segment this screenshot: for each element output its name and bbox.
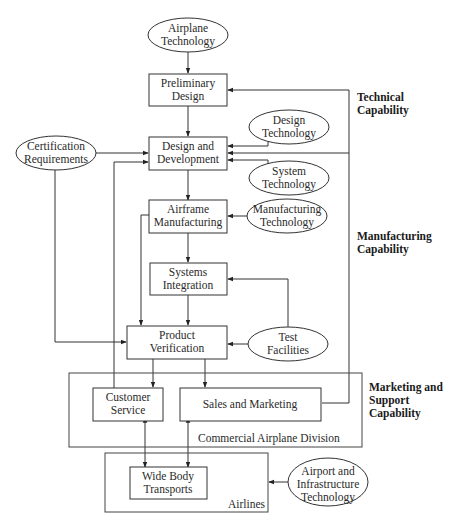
svg-text:Capability: Capability [357,243,409,256]
svg-text:Requirements: Requirements [24,153,88,166]
svg-text:Facilities: Facilities [267,344,310,356]
svg-text:Integration: Integration [163,279,214,292]
svg-text:Technology: Technology [161,35,215,48]
node-design-technology: Design Technology [249,110,329,144]
node-sales-and-marketing: Sales and Marketing [180,388,321,421]
svg-text:Design: Design [273,114,306,127]
edge-airframe-to-product-verification [141,215,149,325]
edge-test-facilities-to-systems-integration [228,279,288,328]
svg-text:Systems: Systems [169,266,208,279]
svg-text:Manufacturing: Manufacturing [154,216,223,229]
svg-text:Manufacturing: Manufacturing [357,230,432,243]
svg-text:Airframe: Airframe [167,203,209,215]
edge-cert-to-product-verification [55,170,126,342]
svg-text:Test: Test [279,331,299,343]
svg-text:Airplane: Airplane [168,22,208,35]
svg-text:Development: Development [157,153,220,166]
svg-text:Technical: Technical [357,91,404,103]
svg-text:Infrastructure: Infrastructure [297,478,360,490]
svg-text:Marketing and: Marketing and [369,381,443,394]
node-airplane-technology: Airplane Technology [148,18,228,52]
svg-text:Wide Body: Wide Body [142,470,194,483]
svg-text:Certification: Certification [27,140,85,152]
capability-flow-diagram: Commercial Airplane Division Airlines Ai… [0,0,451,528]
svg-text:Support: Support [369,394,409,407]
svg-text:Airport and: Airport and [301,465,355,478]
svg-text:Product: Product [159,329,196,341]
node-test-facilities: Test Facilities [248,327,328,361]
node-manufacturing-technology: Manufacturing Technology [247,199,327,233]
svg-text:Technology: Technology [262,178,316,191]
svg-text:Manufacturing: Manufacturing [253,203,322,216]
node-customer-service: Customer Service [93,388,163,421]
edge-design-tech-to-design-dev [228,142,268,146]
capability-label-technical: Technical Capability [357,91,409,117]
svg-text:Capability: Capability [357,104,409,117]
svg-text:Service: Service [111,404,145,416]
node-airframe-manufacturing: Airframe Manufacturing [149,200,227,233]
group-label-commercial-airplane-division: Commercial Airplane Division [198,432,340,445]
node-airport-infrastructure-technology: Airport and Infrastructure Technology [288,458,368,506]
svg-text:Design: Design [172,90,205,103]
svg-text:Technology: Technology [262,127,316,140]
node-design-and-development: Design and Development [149,137,227,170]
svg-text:Design and: Design and [162,140,214,153]
svg-text:Capability: Capability [369,407,421,420]
node-wide-body-transports: Wide Body Transports [130,467,207,499]
svg-text:Transports: Transports [144,483,193,496]
svg-text:Customer: Customer [106,391,151,403]
svg-text:System: System [272,165,306,178]
svg-text:Technology: Technology [260,216,314,229]
node-preliminary-design: Preliminary Design [149,74,227,106]
svg-text:Preliminary: Preliminary [161,77,216,90]
svg-text:Sales and Marketing: Sales and Marketing [203,398,298,411]
capability-label-marketing-support: Marketing and Support Capability [369,381,443,420]
capability-label-manufacturing: Manufacturing Capability [357,230,432,256]
group-label-airlines: Airlines [228,498,266,510]
edge-system-tech-to-design-dev [228,160,268,165]
node-certification-requirements: Certification Requirements [16,136,96,170]
node-system-technology: System Technology [249,161,329,195]
svg-text:Verification: Verification [150,342,205,354]
node-product-verification: Product Verification [127,326,227,359]
svg-text:Technology: Technology [301,491,355,504]
node-systems-integration: Systems Integration [150,263,227,295]
